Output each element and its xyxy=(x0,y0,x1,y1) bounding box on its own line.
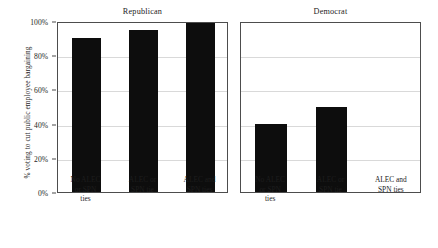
x-axis-tick-label-line: SPN ties xyxy=(361,185,421,195)
y-axis: % voting to cut public employee bargaini… xyxy=(0,0,57,248)
chart-figure: % voting to cut public employee bargaini… xyxy=(0,0,438,248)
y-axis-tick-mark xyxy=(52,22,56,23)
x-axis-tick-label: No ALECor SPNties xyxy=(240,175,300,204)
bar xyxy=(186,23,216,192)
gridline xyxy=(241,91,420,92)
x-axis-tick-label-line: No ALEC xyxy=(57,175,114,185)
panel-republican: Republican xyxy=(57,22,228,193)
panel-democrat: Democrat xyxy=(240,22,421,193)
x-axis-tick-label-line: SPN ties xyxy=(171,185,228,195)
x-axis-tick-label-line: No ALEC xyxy=(240,175,300,185)
plot-area-republican xyxy=(58,23,227,192)
y-axis-tick-label: 80% xyxy=(22,52,48,61)
y-axis-tick-label: 0% xyxy=(22,189,48,198)
x-axis-tick-label-line: ties xyxy=(240,194,300,204)
x-axis-tick-label-line: ALEC and xyxy=(361,175,421,185)
x-axis-tick-label: ALEC orSPN tie xyxy=(114,175,171,194)
x-axis-tick-label-line: ties xyxy=(57,194,114,204)
x-axis-tick-label-line: SPN tie xyxy=(114,185,171,195)
y-axis-tick-label: 40% xyxy=(22,120,48,129)
y-axis-tick-mark xyxy=(52,56,56,57)
y-axis-tick-mark xyxy=(52,193,56,194)
panel-title-republican: Republican xyxy=(58,7,227,16)
y-axis-tick-mark xyxy=(52,124,56,125)
x-axis-tick-label-line: or SPN xyxy=(57,185,114,195)
panel-title-democrat: Democrat xyxy=(241,7,420,16)
x-axis-tick-label: ALEC andSPN ties xyxy=(361,175,421,194)
bar xyxy=(129,30,159,192)
gridline xyxy=(241,57,420,58)
y-axis-tick-mark xyxy=(52,90,56,91)
y-axis-title: % voting to cut public employee bargaini… xyxy=(23,18,32,208)
x-axis-tick-label-line: ALEC and xyxy=(171,175,228,185)
x-axis-tick-label-line: ALEC or xyxy=(300,175,360,185)
x-axis-tick-label: ALEC orSPN tie xyxy=(300,175,360,194)
y-axis-tick-label: 20% xyxy=(22,154,48,163)
y-axis-tick-mark xyxy=(52,158,56,159)
bar xyxy=(72,38,102,192)
y-axis-tick-label: 60% xyxy=(22,86,48,95)
plot-area-democrat xyxy=(241,23,420,192)
x-axis-tick-label-line: SPN tie xyxy=(300,185,360,195)
y-axis-tick-label: 100% xyxy=(22,18,48,27)
x-axis-tick-label: No ALECor SPNties xyxy=(57,175,114,204)
x-axis-tick-label: ALEC andSPN ties xyxy=(171,175,228,194)
x-axis-tick-label-line: ALEC or xyxy=(114,175,171,185)
x-axis-tick-label-line: or SPN xyxy=(240,185,300,195)
